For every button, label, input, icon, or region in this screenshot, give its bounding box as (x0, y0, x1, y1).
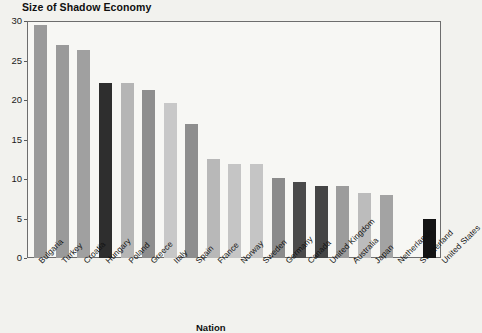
bar-slot (52, 22, 74, 258)
bar-slot (203, 22, 225, 258)
bar (77, 50, 90, 258)
bar-slot (30, 22, 52, 258)
bar-slot (95, 22, 117, 258)
y-tick-mark (24, 21, 27, 22)
y-tick-label: 10 (11, 173, 22, 184)
bar (121, 83, 134, 258)
bar-slot (311, 22, 333, 258)
y-tick-mark (24, 219, 27, 220)
bar (164, 103, 177, 258)
bar (34, 25, 47, 258)
bar-slot (332, 22, 354, 258)
y-axis-tick: 15 (0, 140, 27, 141)
y-axis-tick: 0 (0, 258, 27, 259)
bar (185, 124, 198, 258)
bar-slot (246, 22, 268, 258)
y-tick-mark (24, 140, 27, 141)
bar-slot (418, 22, 440, 258)
y-tick-label: 25 (11, 55, 22, 66)
bar-slot (138, 22, 160, 258)
bar-slot (375, 22, 397, 258)
y-tick-mark (24, 258, 27, 259)
y-tick-mark (24, 100, 27, 101)
y-tick-label: 20 (11, 94, 22, 105)
y-axis-tick: 25 (0, 61, 27, 62)
bar-slot (289, 22, 311, 258)
bar-slot (73, 22, 95, 258)
bar (99, 83, 112, 258)
y-tick-mark (24, 179, 27, 180)
y-axis: 051015202530 (0, 21, 27, 258)
y-axis-tick: 5 (0, 219, 27, 220)
y-tick-mark (24, 61, 27, 62)
bar-slot (267, 22, 289, 258)
bar-slot (397, 22, 419, 258)
y-axis-tick: 10 (0, 179, 27, 180)
y-tick-label: 0 (17, 252, 22, 263)
y-tick-label: 30 (11, 15, 22, 26)
bar-slot (116, 22, 138, 258)
x-axis-title: Nation (196, 322, 226, 333)
bar-slot (224, 22, 246, 258)
y-tick-label: 15 (11, 134, 22, 145)
bar-series (28, 22, 440, 258)
y-axis-tick: 20 (0, 100, 27, 101)
chart-title: Size of Shadow Economy (22, 1, 151, 13)
plot-area (28, 22, 440, 258)
bar-slot (181, 22, 203, 258)
bar (56, 45, 69, 258)
x-axis-labels: BulgariaTurkeyCroatiaHungaryPolandGreece… (28, 259, 440, 329)
y-axis-tick: 30 (0, 21, 27, 22)
bar-slot (159, 22, 181, 258)
bar (142, 90, 155, 258)
y-tick-label: 5 (17, 213, 22, 224)
